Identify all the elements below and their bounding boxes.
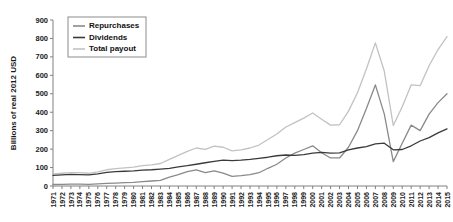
x-tick-label: 1981 (139, 192, 146, 208)
legend-label: Dividends (89, 33, 128, 42)
x-tick-label: 1971 (50, 192, 57, 208)
x-tick-label: 1979 (121, 192, 128, 208)
legend-label: Repurchases (89, 21, 140, 30)
x-tick-label: 1994 (256, 192, 263, 208)
x-tick-label: 1980 (130, 192, 137, 208)
x-tick-label: 1984 (166, 192, 173, 208)
y-axis-title: Billions of real 2012 USD (9, 56, 18, 150)
y-tick-label: 900 (35, 16, 48, 25)
x-tick-label: 2014 (435, 192, 442, 208)
x-tick-label: 1974 (76, 192, 83, 208)
x-tick-label: 2011 (408, 192, 415, 207)
x-tick-label: 1985 (175, 192, 182, 208)
x-tick-label: 2000 (309, 192, 316, 208)
x-tick-label: 1991 (229, 192, 236, 208)
series-lines (53, 37, 447, 185)
x-tick-label: 1978 (112, 192, 119, 208)
x-tick-label: 1988 (202, 192, 209, 208)
y-tick-label: 600 (35, 71, 48, 80)
y-axis: 0100200300400500600700800900 (35, 16, 53, 191)
x-tick-label: 1990 (220, 192, 227, 208)
x-tick-label: 2015 (444, 192, 451, 208)
x-tick-label: 1973 (68, 192, 75, 208)
x-tick-label: 2003 (336, 192, 343, 208)
x-tick-label: 1987 (193, 192, 200, 208)
y-tick-label: 200 (35, 145, 48, 154)
x-tick-label: 1999 (300, 192, 307, 208)
y-tick-label: 300 (35, 126, 48, 135)
chart-container: 0100200300400500600700800900 19711972197… (0, 0, 453, 222)
x-tick-label: 2010 (399, 192, 406, 208)
y-tick-label: 500 (35, 89, 48, 98)
x-tick-label: 1998 (291, 192, 298, 208)
x-tick-label: 2009 (390, 192, 397, 208)
x-tick-label: 1975 (85, 192, 92, 208)
x-tick-label: 1995 (265, 192, 272, 208)
x-tick-label: 1989 (211, 192, 218, 208)
x-tick-label: 2008 (381, 192, 388, 208)
payout-line-chart: 0100200300400500600700800900 19711972197… (0, 0, 453, 222)
y-tick-label: 700 (35, 52, 48, 61)
x-axis: 1971197219731974197519761977197819791980… (50, 186, 451, 208)
chart-legend: RepurchasesDividendsTotal payout (68, 17, 146, 57)
x-tick-label: 1977 (103, 192, 110, 208)
x-tick-label: 1982 (148, 192, 155, 208)
x-tick-label: 2006 (363, 192, 370, 208)
x-tick-label: 1976 (94, 192, 101, 208)
x-tick-label: 1992 (238, 192, 245, 208)
x-tick-label: 2004 (345, 192, 352, 208)
x-tick-label: 2002 (327, 192, 334, 208)
x-tick-label: 1996 (273, 192, 280, 208)
y-tick-label: 800 (35, 34, 48, 43)
x-tick-label: 1986 (184, 192, 191, 208)
x-tick-label: 1993 (247, 192, 254, 208)
y-tick-label: 400 (35, 108, 48, 117)
y-tick-label: 100 (35, 163, 48, 172)
y-tick-label: 0 (44, 182, 48, 191)
x-tick-label: 1997 (282, 192, 289, 208)
x-tick-label: 2001 (318, 192, 325, 208)
x-tick-label: 2012 (417, 192, 424, 208)
x-tick-label: 2013 (426, 192, 433, 208)
legend-label: Total payout (89, 44, 136, 53)
x-tick-label: 2005 (354, 192, 361, 208)
x-tick-label: 1983 (157, 192, 164, 208)
x-tick-label: 2007 (372, 192, 379, 208)
x-tick-label: 1972 (59, 192, 66, 208)
